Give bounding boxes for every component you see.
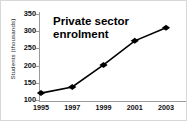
data-point-marker: [37, 90, 45, 96]
x-axis-line: [39, 101, 186, 102]
x-tick-label: 1999: [96, 104, 112, 111]
y-tick-label: 250: [24, 45, 36, 52]
x-tick-label: 1997: [64, 104, 80, 111]
y-tick-label: 350: [24, 10, 36, 17]
x-tick-label: 2003: [158, 104, 174, 111]
chart-figure: Students (thousands) 100150200250300350 …: [0, 0, 187, 121]
y-tick-label: 300: [24, 27, 36, 34]
data-point-marker: [162, 25, 170, 31]
chart-title: Private sector enrolment: [53, 15, 157, 41]
y-tick-label: 150: [24, 79, 36, 86]
y-axis-title: Students (thousands): [10, 6, 16, 92]
x-axis-tick-labels: 19951997199920012003: [39, 104, 186, 118]
x-tick-label: 1995: [33, 104, 49, 111]
y-tick-label: 200: [24, 62, 36, 69]
x-tick-label: 2001: [127, 104, 143, 111]
